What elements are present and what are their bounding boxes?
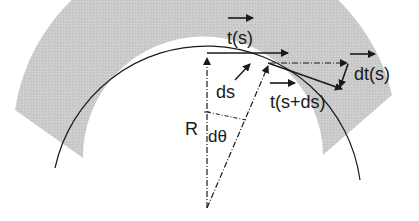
label-ds: ds	[216, 82, 235, 102]
dtheta-arc	[207, 112, 246, 120]
curvature-diagram: t(s) t(s+ds) dt(s) ds R dθ	[0, 0, 419, 221]
ds-pointer	[235, 64, 250, 80]
label-t-s: t(s)	[227, 28, 253, 48]
beam-band	[15, 0, 392, 158]
label-R: R	[185, 119, 198, 139]
label-dt-s: dt(s)	[354, 64, 390, 84]
label-t-s-ds: t(s+ds)	[270, 92, 326, 112]
label-dtheta: dθ	[208, 127, 227, 146]
